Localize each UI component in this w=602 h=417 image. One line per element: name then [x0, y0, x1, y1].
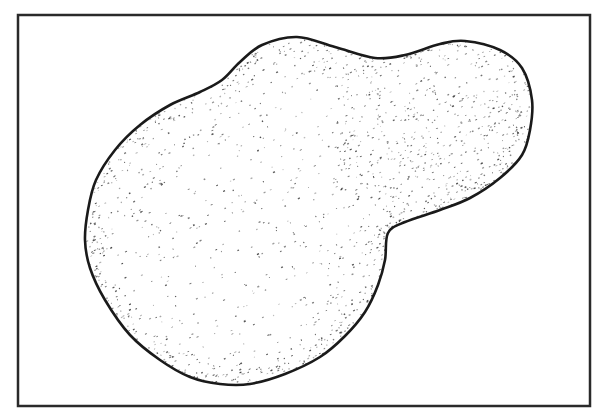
- stipple-texture: [86, 40, 531, 383]
- blob-figure: [0, 0, 602, 417]
- blob-outline: [85, 37, 533, 385]
